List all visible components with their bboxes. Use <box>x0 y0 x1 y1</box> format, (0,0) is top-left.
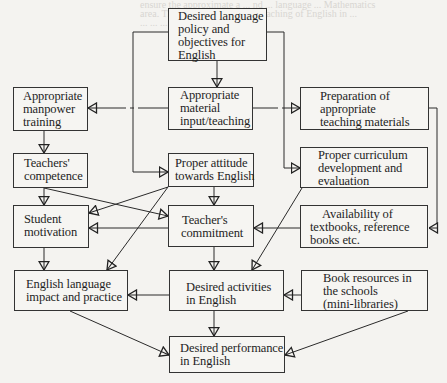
box-proper-curriculum: Proper curriculum development and evalua… <box>300 147 428 188</box>
box-manpower-training: Appropriate manpower training <box>13 87 88 131</box>
box-label: evaluation <box>318 175 427 188</box>
box-label: commitment <box>181 227 253 240</box>
box-teachers-competence: Teachers' competence <box>13 153 88 188</box>
box-label: towards English <box>175 170 253 183</box>
box-label: English <box>178 49 266 62</box>
box-availability-textbooks: Availability of textbooks, reference boo… <box>300 205 428 248</box>
box-label: input/teaching <box>180 115 252 128</box>
box-material-input: Appropriate material input/teaching <box>168 87 253 130</box>
box-label: (mini-libraries) <box>323 298 427 311</box>
box-label: in English <box>180 355 284 368</box>
box-teachers-commitment: Teacher's commitment <box>168 205 254 247</box>
box-label: teaching materials <box>320 116 428 129</box>
box-label: books etc. <box>310 234 427 247</box>
box-student-motivation: Student motivation <box>13 205 89 248</box>
box-desired-activities: Desired activities in English <box>169 270 284 311</box>
box-label: competence <box>24 170 87 183</box>
box-desired-performance: Desired performance in English <box>169 336 285 373</box>
box-proper-attitude: Proper attitude towards English <box>168 153 254 187</box>
box-label: training <box>23 116 87 129</box>
box-label: impact and practice <box>26 291 127 304</box>
box-label: motivation <box>24 226 88 239</box>
box-preparation-materials: Preparation of appropriate teaching mate… <box>300 87 429 130</box>
box-english-language-impact: English language impact and practice <box>14 270 128 311</box>
box-desired-language-policy: Desired language policy and objectives f… <box>168 8 267 61</box>
box-label: in English <box>186 294 283 307</box>
box-book-resources: Book resources in the schools (mini-libr… <box>301 270 428 311</box>
